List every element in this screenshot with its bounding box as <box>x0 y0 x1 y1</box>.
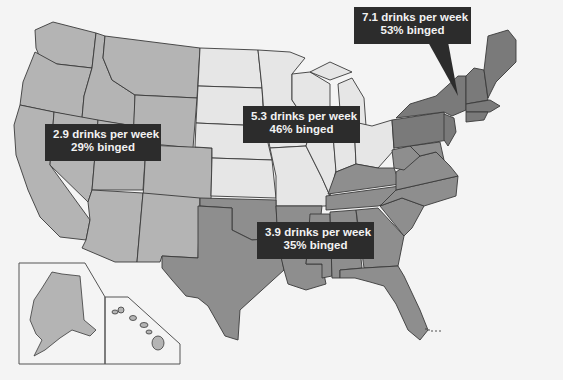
state-maine <box>484 30 516 98</box>
state-arizona <box>82 190 143 262</box>
northeast-drinks-label: 7.1 drinks per week <box>362 11 463 24</box>
state-new-york <box>396 76 466 118</box>
midwest-drinks-label: 5.3 drinks per week <box>251 110 352 123</box>
state-north-dakota <box>198 48 262 88</box>
callout-midwest: 5.3 drinks per week 46% binged <box>243 106 360 143</box>
west-drinks-label: 2.9 drinks per week <box>53 128 153 141</box>
us-region-map <box>0 0 563 380</box>
inset-alaska <box>19 263 105 364</box>
state-kansas <box>211 158 276 198</box>
west-binged-label: 29% binged <box>53 141 153 154</box>
state-hawaii <box>112 307 164 350</box>
state-connecticut-ri <box>466 112 488 122</box>
callout-south: 3.9 drinks per week 35% binged <box>257 222 374 259</box>
south-binged-label: 35% binged <box>265 239 366 252</box>
state-new-jersey <box>444 114 456 146</box>
region-northeast <box>392 30 516 148</box>
state-florida <box>340 266 428 340</box>
state-alaska <box>30 272 96 356</box>
callout-northeast: 7.1 drinks per week 53% binged <box>354 7 471 44</box>
state-ohio <box>354 120 394 168</box>
northeast-binged-label: 53% binged <box>362 24 463 37</box>
callout-west: 2.9 drinks per week 29% binged <box>45 124 161 161</box>
inset-hawaii <box>105 297 180 364</box>
midwest-binged-label: 46% binged <box>251 123 352 136</box>
state-new-mexico <box>137 193 200 262</box>
south-drinks-label: 3.9 drinks per week <box>265 226 366 239</box>
